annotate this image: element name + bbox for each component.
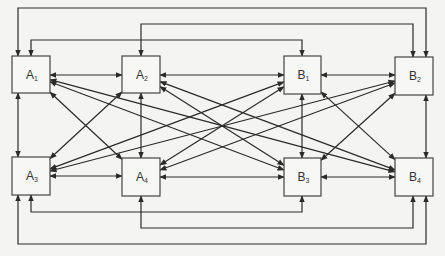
node-subscript: 4	[417, 177, 421, 184]
node-subscript: 2	[144, 75, 148, 82]
node-label: B	[409, 170, 417, 184]
node-subscript: 1	[34, 75, 38, 82]
node-subscript: 1	[306, 75, 310, 82]
node-label: B	[409, 69, 417, 83]
node-b4: B4	[395, 158, 433, 196]
edge-a1-b1	[31, 40, 302, 56]
node-subscript: 3	[34, 176, 38, 183]
node-subscript: 4	[144, 177, 148, 184]
node-b3: B3	[284, 158, 321, 196]
node-label: A	[26, 169, 34, 183]
edge-a3-b4	[18, 195, 426, 244]
node-label: A	[26, 68, 34, 82]
node-b2: B2	[395, 57, 433, 95]
node-a1: A1	[12, 56, 50, 93]
node-subscript: 3	[306, 177, 310, 184]
node-a2: A2	[122, 56, 160, 93]
edge-a1-b2	[18, 8, 426, 57]
node-subscript: 2	[417, 76, 421, 83]
node-b1: B1	[284, 56, 321, 94]
node-a3: A3	[12, 157, 50, 195]
node-a4: A4	[122, 158, 160, 196]
edge-a3-b3	[31, 195, 302, 212]
network-diagram: A1A2B1B2A3A4B3B4	[0, 0, 445, 256]
node-label: A	[136, 68, 144, 82]
edges-layer	[18, 8, 426, 244]
node-label: A	[136, 170, 144, 184]
node-label: B	[298, 170, 306, 184]
node-label: B	[298, 68, 306, 82]
